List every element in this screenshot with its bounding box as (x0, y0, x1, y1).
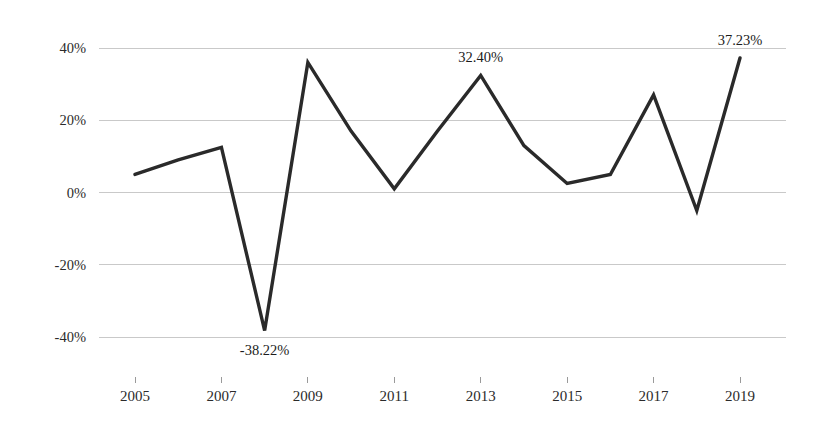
data-point-label: 32.40% (458, 49, 503, 65)
x-axis-tick-label: 2015 (552, 388, 582, 404)
y-axis-tick-label: 40% (59, 40, 86, 56)
x-axis-tick-label: 2007 (206, 388, 237, 404)
y-axis-tick-label: 20% (59, 112, 86, 128)
y-axis-tick-label: -40% (55, 329, 86, 345)
x-axis-tick-label: 2005 (120, 388, 150, 404)
data-point-label: -38.22% (240, 342, 290, 358)
x-axis-tick-label: 2009 (293, 388, 323, 404)
x-axis-tick-label: 2019 (725, 388, 755, 404)
x-axis-tick-label: 2011 (380, 388, 409, 404)
x-axis-tick-label: 2017 (639, 388, 670, 404)
y-axis-tick-label: 0% (67, 185, 86, 201)
chart-canvas: 40%20%0%-20%-40% 20052007200920112013201… (0, 0, 819, 435)
y-axis-tick-label: -20% (55, 257, 86, 273)
x-axis-tick-label: 2013 (466, 388, 496, 404)
chart-background (0, 0, 819, 435)
data-point-label: 37.23% (718, 32, 763, 48)
line-chart: 40%20%0%-20%-40% 20052007200920112013201… (0, 0, 819, 435)
